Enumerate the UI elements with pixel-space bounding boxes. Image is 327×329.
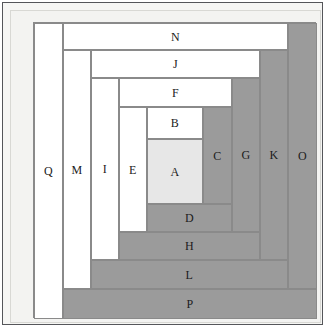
quilt-patch-c: C — [203, 107, 232, 204]
quilt-patch-label: I — [103, 163, 108, 175]
quilt-patch-d: D — [147, 204, 232, 232]
quilt-patch-q: Q — [34, 23, 63, 319]
quilt-patch-label: E — [129, 164, 137, 176]
figure-mat: ABCDEFGHIJKLMNOPQ — [10, 10, 321, 323]
quilt-patch-label: L — [186, 269, 194, 281]
quilt-patch-label: D — [185, 212, 194, 224]
quilt-patch-label: C — [213, 150, 222, 162]
quilt-patch-label: A — [170, 166, 179, 178]
quilt-patch-j: J — [91, 50, 260, 78]
quilt-patch-label: B — [171, 117, 180, 129]
quilt-patch-p: P — [63, 289, 317, 319]
log-cabin-quilt-block: ABCDEFGHIJKLMNOPQ — [33, 22, 316, 318]
quilt-patch-g: G — [232, 78, 260, 232]
quilt-patch-e: E — [119, 107, 147, 232]
quilt-patch-label: N — [171, 31, 180, 43]
quilt-patch-label: F — [172, 87, 179, 99]
quilt-patch-k: K — [260, 50, 288, 260]
quilt-patch-label: O — [298, 150, 307, 162]
quilt-patch-label: H — [185, 240, 194, 252]
quilt-patch-o: O — [288, 23, 317, 289]
quilt-patch-f: F — [119, 78, 232, 107]
quilt-patch-i: I — [91, 78, 119, 260]
quilt-patch-label: P — [186, 298, 193, 310]
quilt-patch-n: N — [63, 23, 288, 50]
quilt-patch-a: A — [147, 139, 203, 204]
quilt-patch-label: M — [71, 164, 82, 176]
quilt-patch-label: J — [173, 58, 178, 70]
quilt-patch-label: Q — [44, 165, 53, 177]
quilt-patch-m: M — [63, 50, 91, 289]
quilt-patch-label: K — [269, 149, 278, 161]
quilt-patch-label: G — [241, 149, 250, 161]
quilt-patch-h: H — [119, 232, 260, 260]
figure-outer-frame: ABCDEFGHIJKLMNOPQ — [2, 2, 323, 325]
quilt-patch-l: L — [91, 260, 288, 289]
quilt-block-figure: ABCDEFGHIJKLMNOPQ — [0, 0, 327, 329]
quilt-patch-b: B — [147, 107, 203, 139]
